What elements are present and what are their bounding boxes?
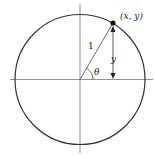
point-marker [110, 20, 115, 25]
diagram-canvas: (x, y) 1 y θ [0, 0, 155, 159]
arrow-head-down [111, 73, 116, 79]
angle-label: θ [94, 67, 100, 77]
radius-label: 1 [88, 41, 94, 51]
point-label: (x, y) [120, 11, 143, 21]
angle-arc [87, 68, 93, 79]
height-label: y [110, 54, 117, 64]
unit-circle-diagram: (x, y) 1 y θ [0, 0, 155, 159]
arrow-head-up [111, 26, 116, 32]
